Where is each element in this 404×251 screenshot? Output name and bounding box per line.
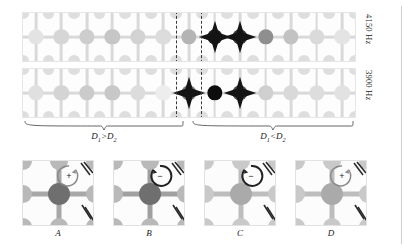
corner-node [247, 111, 259, 118]
corner-node [119, 111, 131, 118]
unit-cell-dashed-box [176, 68, 202, 118]
corner-node [349, 12, 356, 19]
lattice-node [283, 85, 298, 100]
panel-b: − [113, 160, 185, 226]
strip-bottom [22, 68, 356, 118]
panel-corner-node [232, 218, 250, 226]
frequency-label: 3900 Hz [364, 70, 374, 116]
corner-node [298, 55, 310, 62]
corner-node [22, 55, 29, 62]
panel-corner-node [295, 218, 305, 226]
panel-corner-node [204, 218, 214, 226]
corner-node [324, 12, 336, 19]
corner-node [247, 68, 259, 75]
lattice-node [54, 29, 69, 44]
corner-node [221, 68, 233, 75]
corner-node [298, 68, 310, 75]
boundary-hatch-icon [260, 161, 276, 226]
panel-corner-node [141, 218, 159, 226]
corner-node [221, 111, 233, 118]
brace-label-left: D1>D2 [24, 131, 184, 143]
rotation-sign-minus: − [248, 172, 253, 181]
panel-corner-node [113, 185, 123, 203]
right-divider-rule [401, 6, 402, 244]
lattice-node [130, 85, 145, 100]
lattice-node [156, 85, 171, 100]
panel-corner-node [204, 185, 214, 203]
panel-label-d: D [295, 228, 367, 238]
corner-node [247, 12, 259, 19]
corner-node [68, 55, 80, 62]
corner-node [22, 111, 29, 118]
lattice-node [309, 29, 324, 44]
lattice-node [54, 85, 69, 100]
corner-node [145, 12, 157, 19]
panel-label-b: B [113, 228, 185, 238]
rotation-sign-plus: + [66, 172, 71, 181]
corner-node [247, 55, 259, 62]
panel-corner-node [295, 160, 305, 170]
panel-corner-node [204, 160, 214, 170]
corner-node [324, 111, 336, 118]
amplitude-star-marker [221, 75, 259, 111]
lattice-node [309, 85, 324, 100]
corner-node [145, 111, 157, 118]
corner-node [272, 111, 284, 118]
corner-node [298, 12, 310, 19]
frequency-label: 4150 Hz [364, 14, 374, 60]
corner-node [22, 12, 29, 19]
lattice-node [283, 29, 298, 44]
panel-corner-node [113, 160, 123, 170]
brace-left [24, 118, 184, 130]
panel-corner-node [323, 218, 341, 226]
rotation-sign-plus: + [339, 172, 344, 181]
corner-node [119, 68, 131, 75]
corner-node [94, 55, 106, 62]
corner-node [94, 68, 106, 75]
corner-node [119, 55, 131, 62]
panel-d: + [295, 160, 367, 226]
panel-label-a: A [22, 228, 94, 238]
lattice-node [28, 85, 43, 100]
corner-node [221, 12, 233, 19]
unit-cell-dashed-box [176, 12, 202, 62]
panel-corner-node [22, 160, 32, 170]
corner-node [145, 68, 157, 75]
boundary-hatch-icon [169, 161, 185, 226]
lattice-node [105, 29, 120, 44]
corner-node [68, 111, 80, 118]
corner-node [43, 111, 55, 118]
corner-node [43, 55, 55, 62]
corner-node [349, 55, 356, 62]
corner-node [324, 55, 336, 62]
panel-corner-node [22, 218, 32, 226]
lattice-node [335, 85, 350, 100]
lattice-node [79, 85, 94, 100]
boundary-hatch-icon [351, 161, 367, 226]
corner-node [272, 68, 284, 75]
lattice-node [258, 29, 273, 44]
corner-node [94, 111, 106, 118]
boundary-hatch-icon [78, 161, 94, 226]
lattice-node [258, 85, 273, 100]
lattice-node [335, 29, 350, 44]
panel-label-c: C [204, 228, 276, 238]
lattice-node [79, 29, 94, 44]
corner-node [22, 68, 29, 75]
amplitude-star-marker [221, 19, 259, 55]
brace-right [192, 118, 354, 130]
corner-node [68, 68, 80, 75]
corner-node [324, 68, 336, 75]
corner-node [349, 111, 356, 118]
lattice-node [207, 85, 222, 100]
panel-corner-node [50, 218, 68, 226]
corner-node [272, 12, 284, 19]
lattice-node [105, 85, 120, 100]
panel-corner-node [295, 185, 305, 203]
panel-corner-node [22, 185, 32, 203]
panel-c: − [204, 160, 276, 226]
corner-node [272, 55, 284, 62]
corner-node [68, 12, 80, 19]
panel-corner-node [113, 218, 123, 226]
corner-node [94, 12, 106, 19]
